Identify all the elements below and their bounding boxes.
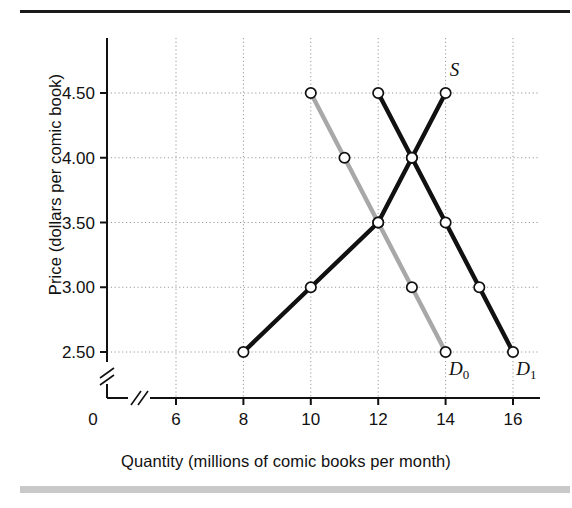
data-point-marker [440, 347, 450, 357]
supply-demand-plot: 2.503.003.504.004.5068101214160SD0D1 [0, 0, 572, 508]
x-tick-label: 6 [171, 410, 180, 429]
y-tick-label: 2.50 [62, 343, 95, 362]
origin-label: 0 [88, 410, 97, 429]
y-tick-label: 3.00 [62, 278, 95, 297]
x-tick-label: 10 [301, 410, 320, 429]
curve-label-D0: D0 [448, 358, 469, 382]
y-tick-label: 3.50 [62, 214, 95, 233]
curve-label-D1: D1 [515, 358, 536, 382]
data-point-marker [474, 282, 484, 292]
data-point-marker [339, 153, 349, 163]
data-point-marker [407, 282, 417, 292]
x-tick-label: 8 [239, 410, 248, 429]
data-point-marker [440, 88, 450, 98]
data-point-marker [373, 88, 383, 98]
x-break-mask [128, 395, 150, 401]
x-tick-label: 16 [504, 410, 523, 429]
data-point-marker [306, 282, 316, 292]
data-point-marker [373, 217, 383, 227]
y-tick-label: 4.00 [62, 149, 95, 168]
x-tick-label: 14 [436, 410, 455, 429]
curve-sublabel: 0 [463, 367, 470, 382]
curve-sublabel: 1 [530, 367, 537, 382]
y-tick-label: 4.50 [62, 84, 95, 103]
x-tick-label: 12 [369, 410, 388, 429]
data-point-marker [440, 217, 450, 227]
data-point-marker [508, 347, 518, 357]
data-point-marker [407, 153, 417, 163]
data-point-marker [238, 347, 248, 357]
curve-label-S: S [450, 59, 460, 80]
figure-panel: Price (dollars per comic book) Quantity … [0, 0, 572, 508]
data-point-marker [306, 88, 316, 98]
